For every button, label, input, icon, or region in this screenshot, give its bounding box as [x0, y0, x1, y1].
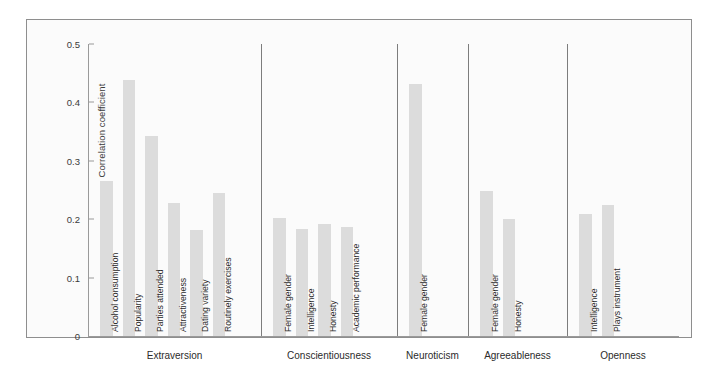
- bar-category-label: Routinely exercises: [223, 257, 233, 332]
- y-axis-tick-mark: [89, 44, 94, 45]
- group-label: Extraversion: [147, 350, 203, 361]
- bar-category-label: Alcohol consumption: [110, 253, 120, 332]
- chart-plot-area: Correlation coefficient 00.10.20.30.40.5…: [27, 20, 691, 337]
- group-label: Neuroticism: [406, 350, 459, 361]
- y-axis-tick-label: 0: [52, 331, 80, 342]
- figure-panel: Correlation coefficient 00.10.20.30.40.5…: [26, 19, 692, 338]
- bar-category-label: Female gender: [490, 274, 500, 332]
- y-axis-tick-mark: [89, 277, 94, 278]
- bar-category-label: Intelligence: [306, 289, 316, 332]
- group-separator: [567, 44, 568, 336]
- bar-category-label: Parties attended: [155, 269, 165, 332]
- group-label: Agreeableness: [484, 350, 551, 361]
- y-axis-line: [88, 44, 89, 336]
- x-axis-line: [88, 336, 679, 337]
- group-separator: [261, 44, 262, 336]
- y-axis-tick-label: 0.1: [52, 272, 80, 283]
- bar-category-label: Academic performance: [351, 244, 361, 332]
- bar-category-label: Honesty: [513, 300, 523, 332]
- bar-category-label: Intelligence: [589, 289, 599, 332]
- y-axis-tick-label: 0.4: [52, 97, 80, 108]
- y-axis-tick-label: 0.3: [52, 155, 80, 166]
- group-separator: [397, 44, 398, 336]
- group-label: Conscientiousness: [287, 350, 371, 361]
- y-axis-tick-label: 0.2: [52, 214, 80, 225]
- y-axis-tick-mark: [89, 160, 94, 161]
- bar-category-label: Female gender: [419, 274, 429, 332]
- group-label: Openness: [600, 350, 646, 361]
- bar-category-label: Attractiveness: [178, 278, 188, 332]
- y-axis-tick-mark: [89, 102, 94, 103]
- bar-category-label: Honesty: [328, 300, 338, 332]
- y-axis-tick-label: 0.5: [52, 39, 80, 50]
- bar-category-label: Popularity: [133, 294, 143, 332]
- y-axis-tick-mark: [89, 219, 94, 220]
- bar-category-label: Dating variety: [200, 279, 210, 332]
- bar-category-label: Female gender: [283, 274, 293, 332]
- group-separator: [468, 44, 469, 336]
- bar-category-label: Plays instrument: [612, 268, 622, 332]
